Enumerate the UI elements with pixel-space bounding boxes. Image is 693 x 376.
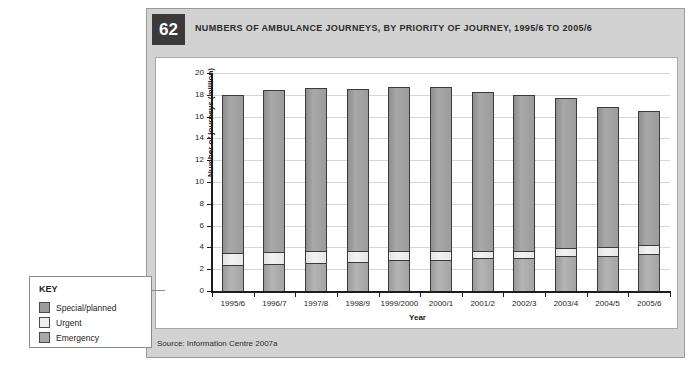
x-axis-tick-mark [337, 293, 338, 297]
bar-segment-emergency [639, 255, 659, 292]
y-axis-tick-label: 0 [184, 287, 204, 295]
bar-segment-special-planned [639, 112, 659, 245]
bar-stack [347, 89, 369, 291]
bar-segment-urgent [264, 252, 284, 265]
bar-segment-special-planned [556, 99, 576, 248]
y-axis-tick-label: 12 [184, 156, 204, 164]
figure-number-badge: 62 [152, 14, 185, 45]
bar-segment-urgent [639, 245, 659, 255]
bar-segment-urgent [306, 251, 326, 264]
y-axis-tick-mark [207, 226, 211, 227]
bar-segment-special-planned [223, 96, 243, 253]
legend-swatch-icon [39, 332, 50, 343]
y-axis-tick-label: 4 [184, 243, 204, 251]
bar-segment-emergency [556, 257, 576, 292]
x-axis-tick-mark [670, 293, 671, 297]
y-axis-tick-label: 14 [184, 134, 204, 142]
bar-segment-urgent [431, 251, 451, 261]
source-note: Source: Information Centre 2007a [157, 339, 278, 348]
x-axis-title: Year [156, 313, 679, 322]
legend-item: Special/planned [39, 301, 117, 314]
bar-segment-special-planned [264, 91, 284, 251]
figure-header: 62 NUMBERS OF AMBULANCE JOURNEYS, BY PRI… [147, 9, 686, 51]
bar-stack [638, 111, 660, 291]
y-axis-tick-mark [207, 138, 211, 139]
y-axis-tick-label: 20 [184, 69, 204, 77]
x-axis-tick-mark [379, 293, 380, 297]
legend-swatch-icon [39, 317, 50, 328]
y-axis-tick-mark [207, 182, 211, 183]
bar-segment-emergency [264, 265, 284, 292]
bar-segment-emergency [389, 261, 409, 292]
gridline [212, 73, 670, 74]
x-axis-tick-mark [587, 293, 588, 297]
bar-segment-special-planned [431, 88, 451, 250]
y-axis-tick-label: 6 [184, 222, 204, 230]
figure-panel: 62 NUMBERS OF AMBULANCE JOURNEYS, BY PRI… [146, 8, 685, 358]
y-axis-tick-mark [207, 117, 211, 118]
y-axis-tick-mark [207, 204, 211, 205]
y-axis-tick-label: 18 [184, 91, 204, 99]
x-axis-tick-mark [628, 293, 629, 297]
x-axis-tick-mark [462, 293, 463, 297]
bar-stack [305, 88, 327, 291]
x-axis-tick-mark [295, 293, 296, 297]
bar-stack [472, 92, 494, 291]
y-axis-line [211, 73, 213, 292]
bar-stack [388, 87, 410, 291]
y-axis-tick-label: 10 [184, 178, 204, 186]
bar-segment-urgent [473, 251, 493, 260]
x-axis-tick-mark [420, 293, 421, 297]
y-axis-tick-label: 16 [184, 113, 204, 121]
bar-segment-special-planned [348, 90, 368, 250]
x-axis-tick-mark [503, 293, 504, 297]
y-axis-tick-mark [207, 291, 211, 292]
legend-item: Emergency [39, 331, 99, 344]
bar-segment-special-planned [306, 89, 326, 251]
bar-segment-urgent [223, 253, 243, 266]
y-axis-tick-mark [207, 73, 211, 74]
bar-segment-special-planned [389, 88, 409, 250]
bar-segment-emergency [306, 264, 326, 292]
bar-segment-urgent [598, 247, 618, 257]
bar-segment-emergency [431, 261, 451, 292]
x-axis-line [211, 291, 671, 293]
bar-segment-special-planned [473, 93, 493, 251]
x-axis-tick-mark [212, 293, 213, 297]
bar-segment-special-planned [514, 96, 534, 251]
legend-item: Urgent [39, 316, 82, 329]
bar-stack [430, 87, 452, 291]
legend-item-label: Special/planned [56, 303, 117, 313]
key-connector-line [151, 290, 165, 291]
bar-stack [263, 90, 285, 291]
bar-segment-urgent [514, 251, 534, 259]
x-axis-tick-label: 2005/6 [619, 299, 679, 308]
y-axis-tick-mark [207, 95, 211, 96]
chart-canvas: Number of journeys (million) Year 024681… [155, 57, 678, 329]
bar-segment-emergency [348, 263, 368, 292]
y-axis-tick-mark [207, 269, 211, 270]
y-axis-tick-mark [207, 160, 211, 161]
legend-item-label: Emergency [56, 333, 99, 343]
legend-item-label: Urgent [56, 318, 82, 328]
bar-segment-emergency [223, 266, 243, 292]
y-axis-tick-label: 8 [184, 200, 204, 208]
bar-segment-urgent [556, 248, 576, 257]
bar-stack [555, 98, 577, 291]
x-axis-tick-mark [254, 293, 255, 297]
y-axis-tick-mark [207, 247, 211, 248]
page-title: NUMBERS OF AMBULANCE JOURNEYS, BY PRIORI… [195, 22, 675, 34]
bar-stack [222, 95, 244, 291]
bar-stack [513, 95, 535, 291]
bar-segment-emergency [473, 259, 493, 292]
source-bar: Source: Information Centre 2007a [155, 336, 678, 353]
y-axis-tick-label: 2 [184, 265, 204, 273]
legend-heading: KEY [39, 284, 58, 294]
bar-segment-urgent [348, 251, 368, 263]
bar-segment-emergency [514, 259, 534, 292]
legend-swatch-icon [39, 302, 50, 313]
plot-area [212, 73, 670, 291]
bar-segment-emergency [598, 257, 618, 292]
bar-segment-special-planned [598, 108, 618, 247]
chart-legend: KEY Special/plannedUrgentEmergency [29, 276, 152, 348]
